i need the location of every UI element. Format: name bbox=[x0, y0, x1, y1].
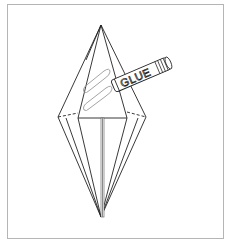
center-crease bbox=[101, 118, 104, 217]
glue-marks bbox=[84, 69, 113, 110]
frame bbox=[8, 5, 224, 239]
glue-stick-icon: GLUE bbox=[111, 56, 174, 92]
origami-diagram: GLUE bbox=[0, 0, 230, 244]
glue-label: GLUE bbox=[118, 66, 152, 90]
